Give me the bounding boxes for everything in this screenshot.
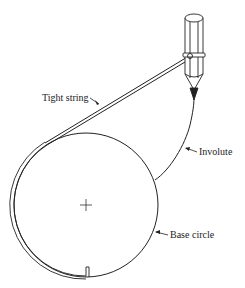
wrapped-string-outer — [10, 142, 86, 279]
label-base-circle: Base circle — [170, 229, 215, 240]
involute-curve — [155, 98, 194, 180]
label-tight-string: Tight string — [42, 92, 89, 103]
pencil-icon — [183, 14, 205, 100]
center-mark-icon — [80, 199, 92, 211]
wrapped-string — [14, 145, 86, 276]
label-involute: Involute — [199, 146, 233, 157]
involute-diagram: Tight string Involute Base circle — [0, 0, 245, 288]
string-anchor — [86, 267, 89, 277]
